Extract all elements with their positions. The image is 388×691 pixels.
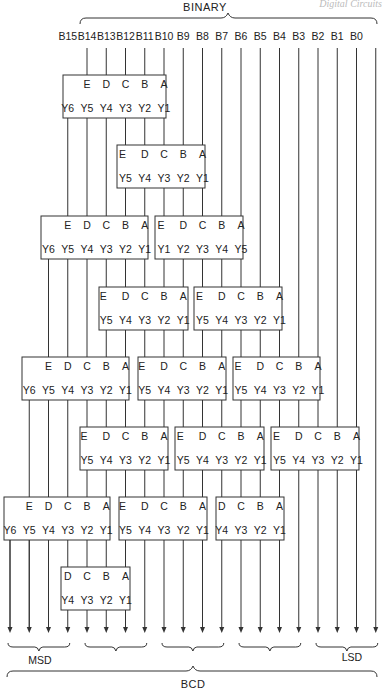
block-output-y4: Y4 [215,314,228,326]
converter-block-r5-b: EDCBAY5Y4Y3Y2Y1 [138,357,228,400]
block-output-y6: Y6 [4,524,17,536]
block-output-y3: Y3 [196,243,209,255]
block-input-a: A [199,500,206,512]
block-input-e: E [83,78,90,90]
block-input-b: B [122,219,129,231]
block-output-y4: Y4 [138,524,151,536]
block-input-a: A [141,219,148,231]
block-output-y5: Y5 [119,172,132,184]
block-output-y6: Y6 [42,243,55,255]
block-output-y3: Y3 [158,172,171,184]
block-output-y3: Y3 [119,102,132,114]
block-input-e: E [177,430,184,442]
converter-block-r3-a: EDCBAY6Y5Y4Y3Y2Y1 [41,216,151,259]
block-input-d: D [256,360,264,372]
converter-block-r5-a: EDCBAY6Y5Y4Y3Y2Y1 [22,357,132,400]
block-outline [22,357,129,400]
block-input-e: E [138,360,145,372]
block-input-b: B [334,430,341,442]
output-arrow-icon [296,627,301,633]
block-output-y1: Y1 [100,524,113,536]
converter-block-r7-c: DCBAY4Y3Y2Y1 [215,497,286,540]
block-output-y1: Y1 [196,524,209,536]
block-input-b: B [83,500,90,512]
block-input-e: E [196,290,203,302]
block-input-e: E [80,430,87,442]
block-input-c: C [218,430,226,442]
output-arrow-icon [219,627,224,633]
block-input-a: A [122,570,129,582]
block-output-y3: Y3 [177,384,190,396]
block-output-y2: Y2 [138,454,151,466]
block-output-y3: Y3 [100,243,113,255]
output-arrow-icon [239,627,244,633]
block-input-e: E [45,360,52,372]
block-input-b: B [103,570,110,582]
block-output-y1: Y1 [158,102,171,114]
block-input-b: B [199,360,206,372]
input-label-b0: B0 [350,30,363,42]
block-output-y2: Y2 [254,314,267,326]
block-output-y4: Y4 [81,243,94,255]
block-input-d: D [179,219,187,231]
block-output-y1: Y1 [273,314,286,326]
input-label-b6: B6 [235,30,248,42]
block-input-a: A [276,290,283,302]
block-input-e: E [64,219,71,231]
block-input-a: A [237,219,244,231]
bcd-digit-brace [162,643,224,651]
block-input-a: A [353,430,360,442]
block-output-y4: Y4 [119,314,132,326]
block-output-y3: Y3 [119,454,132,466]
input-label-b9: B9 [177,30,190,42]
block-input-c: C [314,430,322,442]
converter-block-r5-c: EDCBAY5Y4Y3Y2Y1 [233,357,325,400]
block-output-y6: Y6 [23,384,36,396]
block-output-y2: Y2 [158,314,171,326]
block-input-e: E [100,290,107,302]
block-output-y3: Y3 [273,384,286,396]
input-label-b4: B4 [273,30,286,42]
binary-brace [80,13,377,24]
block-input-b: B [180,148,187,160]
block-input-d: D [218,290,226,302]
block-output-y2: Y2 [138,102,151,114]
block-input-a: A [122,360,129,372]
block-output-y4: Y4 [138,172,151,184]
block-output-y1: Y1 [273,524,286,536]
bcd-brace [7,666,377,677]
input-label-b3: B3 [292,30,305,42]
block-output-y1: Y1 [254,454,267,466]
block-input-e: E [234,360,241,372]
block-output-y2: Y2 [196,384,209,396]
input-label-b13: B13 [97,30,116,42]
block-input-a: A [160,78,167,90]
block-output-y3: Y3 [61,524,74,536]
msd-label: MSD [28,654,52,666]
block-output-y5: Y5 [23,524,36,536]
converter-block-r6-a: EDCBAY5Y4Y3Y2Y1 [80,427,171,470]
output-arrow-icon [104,627,109,633]
input-label-b15: B15 [58,30,77,42]
output-arrow-icon [258,627,263,633]
converter-block-r6-b: EDCBAY5Y4Y3Y2Y1 [175,427,267,470]
output-arrow-icon [142,627,147,633]
output-group-braces [8,643,378,651]
block-output-y2: Y2 [331,454,344,466]
block-input-e: E [273,430,280,442]
output-arrow-icon [46,627,51,633]
input-label-b5: B5 [254,30,267,42]
block-output-y4: Y4 [292,454,305,466]
block-output-y5: Y5 [235,243,248,255]
block-input-b: B [257,500,264,512]
block-output-y4: Y4 [100,102,113,114]
block-output-y5: Y5 [273,454,286,466]
output-arrow-icon [85,627,90,633]
block-output-y5: Y5 [138,384,151,396]
block-input-d: D [141,500,149,512]
block-input-b: B [141,78,148,90]
block-input-c: C [83,360,91,372]
block-input-c: C [237,290,245,302]
block-input-c: C [83,570,91,582]
block-output-y4: Y4 [100,454,113,466]
